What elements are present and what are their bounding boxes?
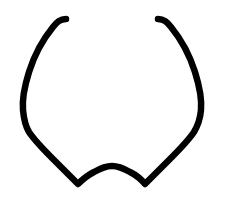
drawing-surface xyxy=(0,0,235,199)
line-drawing-canvas xyxy=(0,0,235,199)
